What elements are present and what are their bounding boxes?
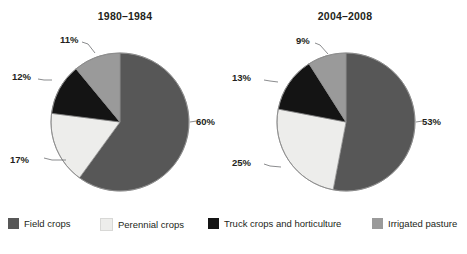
slice-label-left-truck-crops: 12% <box>12 71 31 82</box>
chart-canvas: 1980–1984 2004–2008 60% 17% 12% 11% 53% … <box>0 0 467 254</box>
slice-label-right-truck-crops: 13% <box>232 72 251 83</box>
slice-label-left-perennial-crops: 17% <box>10 154 29 165</box>
pie-chart-1980-1984 <box>42 44 198 200</box>
slice-label-right-irrigated-pasture: 9% <box>296 35 310 46</box>
legend-label-perennial-crops: Perennial crops <box>118 219 184 230</box>
legend-label-field-crops: Field crops <box>24 218 70 229</box>
legend-swatch-icon-perennial-crops <box>100 218 113 231</box>
slice-label-left-field-crops: 60% <box>196 116 215 127</box>
pie-chart-2004-2008 <box>268 44 424 200</box>
legend-item-truck-crops: Truck crops and horticulture <box>208 218 341 229</box>
slice-label-right-perennial-crops: 25% <box>232 157 251 168</box>
chart-title-left: 1980–1984 <box>60 10 190 22</box>
legend-swatch-icon-irrigated-pasture <box>372 218 383 229</box>
chart-legend: Field crops Perennial crops Truck crops … <box>0 216 467 236</box>
legend-label-irrigated-pasture: Irrigated pasture <box>388 218 457 229</box>
legend-item-field-crops: Field crops <box>8 218 70 229</box>
legend-label-truck-crops: Truck crops and horticulture <box>224 218 341 229</box>
legend-swatch-icon-field-crops <box>8 218 19 229</box>
slice-label-left-irrigated-pasture: 11% <box>60 34 79 45</box>
legend-item-perennial-crops: Perennial crops <box>100 218 184 231</box>
slice-label-right-field-crops: 53% <box>422 116 441 127</box>
legend-swatch-icon-truck-crops <box>208 218 219 229</box>
chart-title-right: 2004–2008 <box>280 10 410 22</box>
pie-slice-perennial-crops <box>277 109 346 190</box>
legend-item-irrigated-pasture: Irrigated pasture <box>372 218 457 229</box>
